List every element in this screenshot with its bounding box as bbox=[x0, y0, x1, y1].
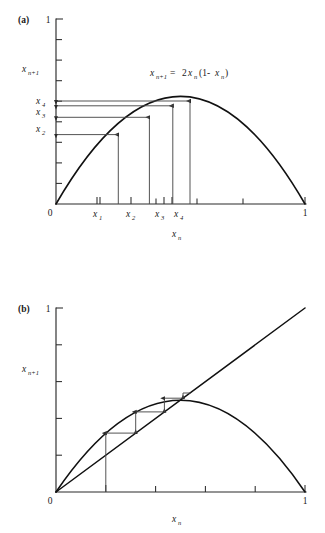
panel-a-y-top-label: 1 bbox=[46, 15, 51, 25]
panel-a-x-value-label-x2: x 2 bbox=[125, 209, 136, 221]
panel-b-x-ticks bbox=[106, 485, 305, 492]
panel-a-y-label-x4-sub: 4 bbox=[42, 101, 46, 108]
panel-a-cobweb-chart: (a) 1 0 bbox=[0, 0, 325, 262]
panel-a-y-axis-title-sub: n+1 bbox=[28, 69, 39, 76]
panel-a-x-label-x4-var: x bbox=[173, 209, 179, 219]
panel-a-y-value-label-x3: x 3 bbox=[35, 107, 46, 119]
panel-a-y-label-x3-sub: 3 bbox=[41, 112, 46, 119]
panel-a-x-label-x2-sub: 2 bbox=[132, 214, 136, 221]
panel-a-x-axis-title-sub: n bbox=[178, 234, 181, 241]
equation-factor-close: ) bbox=[225, 68, 228, 79]
equation-rhs-var: x bbox=[187, 68, 193, 78]
panel-b-x-axis-title-sub: n bbox=[178, 519, 181, 526]
panel-b-y-axis-title-var: x bbox=[21, 364, 27, 374]
panel-a-x-value-label-x4: x 4 bbox=[173, 209, 184, 221]
panel-a-y-value-label-x2: x 2 bbox=[35, 124, 46, 136]
panel-a-label: (a) bbox=[18, 15, 29, 26]
panel-a-x-axis-title: x n bbox=[171, 229, 181, 241]
equation-factor-open: (1- bbox=[199, 68, 210, 79]
panel-a-x-label-x4-sub: 4 bbox=[180, 214, 184, 221]
panel-a-y-label-x3-var: x bbox=[35, 107, 41, 117]
panel-a-x-label-x1-sub: 1 bbox=[99, 214, 102, 221]
panel-b-cobweb-path bbox=[106, 393, 191, 492]
panel-a-x-label-x3-var: x bbox=[154, 209, 160, 219]
panel-a-y-axis-title: x n+1 bbox=[21, 64, 39, 76]
panel-b-x-right-label: 1 bbox=[303, 496, 308, 506]
panel-a-y-label-x2-var: x bbox=[35, 124, 41, 134]
panel-b-x-axis-title-var: x bbox=[171, 514, 177, 524]
panel-b-x-axis-title: x n bbox=[171, 514, 181, 526]
panel-a-logistic-curve bbox=[56, 96, 305, 204]
panel-a-y-label-x2-sub: 2 bbox=[42, 129, 46, 136]
panel-a-x-right-label: 1 bbox=[303, 208, 308, 218]
equation-lhs-sub: n+1 bbox=[156, 73, 167, 80]
panel-b-label: (b) bbox=[18, 304, 30, 315]
panel-a-x-value-label-x1: x 1 bbox=[92, 209, 102, 221]
panel-a-iteration-arrows bbox=[56, 101, 190, 204]
equation-coefficient: 2 bbox=[182, 68, 187, 78]
panel-a-x-label-x1-var: x bbox=[92, 209, 98, 219]
figure-root: (a) 1 0 bbox=[0, 0, 325, 533]
panel-b-cobweb-chart: (b) 1 0 1 x n+1 x n bbox=[0, 260, 325, 533]
panel-a-x-label-x3-sub: 3 bbox=[160, 214, 165, 221]
panel-a-y-axis-title-var: x bbox=[21, 64, 27, 74]
equation-rhs-sub: n bbox=[194, 73, 197, 80]
equation-factor-sub: n bbox=[221, 73, 224, 80]
panel-a-x-axis-title-var: x bbox=[171, 229, 177, 239]
panel-b-y-ticks bbox=[56, 308, 63, 455]
panel-a-x-value-label-x3: x 3 bbox=[154, 209, 165, 221]
panel-b-y-top-label: 1 bbox=[46, 304, 51, 314]
panel-a-x-ticks bbox=[97, 197, 305, 204]
equation-equals: = bbox=[170, 68, 175, 78]
panel-a-x-label-x2-var: x bbox=[125, 209, 131, 219]
equation-factor-var: x bbox=[214, 68, 220, 78]
panel-a-y-label-x4-var: x bbox=[35, 96, 41, 106]
panel-b-logistic-curve bbox=[56, 400, 305, 492]
equation-lhs-var: x bbox=[149, 68, 155, 78]
panel-b-y-axis-title-sub: n+1 bbox=[28, 369, 39, 376]
panel-a-equation: x n+1 = 2 x n (1- x n ) bbox=[149, 68, 228, 80]
panel-b-y-axis-title: x n+1 bbox=[21, 364, 39, 376]
panel-b-origin-label: 0 bbox=[48, 496, 53, 506]
panel-a-origin-label: 0 bbox=[48, 208, 53, 218]
